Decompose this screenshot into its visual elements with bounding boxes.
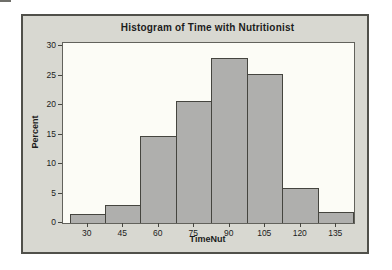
histogram-bar-135 bbox=[318, 212, 355, 223]
x-tick-mark-45 bbox=[122, 223, 123, 227]
x-tick-mark-30 bbox=[87, 223, 88, 227]
histogram-bar-120 bbox=[282, 188, 319, 223]
y-tick-label-5: 5 bbox=[23, 188, 56, 198]
y-tick-label-25: 25 bbox=[23, 70, 56, 80]
x-tick-mark-75 bbox=[193, 223, 194, 227]
histogram-bar-45 bbox=[105, 205, 142, 223]
y-tick-mark-20 bbox=[58, 104, 62, 105]
stray-scan-mark bbox=[0, 0, 11, 2]
y-tick-label-15: 15 bbox=[23, 129, 56, 139]
plot-area bbox=[62, 42, 355, 224]
chart-title: Histogram of Time with Nutritionist bbox=[62, 22, 353, 33]
y-tick-mark-0 bbox=[58, 222, 62, 223]
y-tick-mark-25 bbox=[58, 75, 62, 76]
x-tick-mark-120 bbox=[300, 223, 301, 227]
x-tick-mark-60 bbox=[158, 223, 159, 227]
y-tick-label-20: 20 bbox=[23, 99, 56, 109]
y-tick-label-30: 30 bbox=[23, 40, 56, 50]
y-tick-mark-10 bbox=[58, 163, 62, 164]
y-tick-label-0: 0 bbox=[23, 217, 56, 227]
y-tick-mark-30 bbox=[58, 45, 62, 46]
histogram-bar-105 bbox=[247, 74, 284, 223]
x-tick-mark-105 bbox=[264, 223, 265, 227]
histogram-bar-90 bbox=[211, 58, 248, 223]
chart-window: Histogram of Time with Nutritionist Perc… bbox=[21, 14, 369, 254]
y-tick-mark-15 bbox=[58, 134, 62, 135]
y-tick-mark-5 bbox=[58, 193, 62, 194]
histogram-bar-30 bbox=[70, 214, 106, 223]
y-tick-label-10: 10 bbox=[23, 158, 56, 168]
histogram-bar-75 bbox=[176, 101, 213, 223]
histogram-bar-60 bbox=[140, 136, 177, 223]
x-axis-title: TimeNut bbox=[62, 234, 353, 244]
x-tick-mark-90 bbox=[229, 223, 230, 227]
x-tick-mark-135 bbox=[335, 223, 336, 227]
